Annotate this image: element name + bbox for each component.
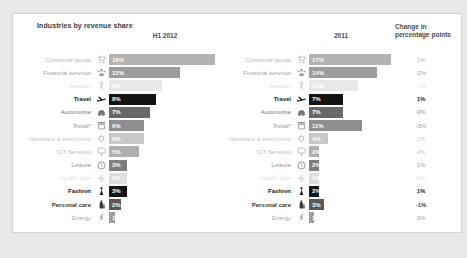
bar-value-2011: 11%	[309, 123, 324, 129]
monitor-icon	[93, 147, 109, 156]
bar-area-h1-2012: 6%	[109, 133, 221, 144]
bar-area-h1-2012: 1%	[109, 212, 221, 223]
bar-area-h1-2012: 9%	[109, 80, 221, 91]
bar-2011: 10%	[309, 80, 358, 91]
phone-icon	[293, 81, 309, 90]
industry-label: Travel	[221, 96, 293, 102]
bar-area-h1-2012: 3%	[109, 173, 221, 184]
bar-2011: 1%	[309, 212, 314, 223]
industry-row: ICT Services5%ICT Services2%3%	[13, 145, 463, 158]
bar-area-2011: 17%	[309, 54, 393, 65]
industry-label: Automotive	[221, 109, 293, 115]
bar-value-h1-2012: 8%	[109, 96, 121, 102]
bar-area-2011: 3%	[309, 199, 393, 210]
bar-value-h1-2012: 5%	[109, 149, 121, 155]
industry-row: Personal care2%Personal care3%-1%	[13, 198, 463, 211]
gear-icon	[93, 134, 109, 143]
bar-value-h1-2012: 18%	[109, 57, 124, 63]
bar-2011: 2%	[309, 173, 319, 184]
bar-2011: 7%	[309, 107, 343, 118]
person-icon	[293, 187, 309, 196]
bar-h1-2012: 6%	[109, 133, 144, 144]
bottle-icon	[93, 200, 109, 209]
plane-icon	[93, 95, 109, 104]
change-header-line1: Change in	[395, 23, 459, 31]
industry-label: Consumer goods	[13, 57, 93, 63]
change-value: -1%	[393, 202, 449, 208]
bar-value-2011: 14%	[309, 70, 324, 76]
plane-icon	[293, 95, 309, 104]
bar-value-h1-2012: 1%	[109, 215, 121, 221]
bar-area-2011: 10%	[309, 80, 393, 91]
industry-label: Fashion	[13, 188, 93, 194]
change-value: -5%	[393, 123, 449, 129]
industry-label: Fashion	[221, 188, 293, 194]
change-value: 2%	[393, 136, 449, 142]
bar-value-2011: 17%	[309, 57, 324, 63]
bar-2011: 2%	[309, 160, 319, 171]
bar-h1-2012: 3%	[109, 173, 127, 184]
bar-area-h1-2012: 5%	[109, 146, 221, 157]
bar-area-2011: 1%	[309, 212, 393, 223]
bar-h1-2012: 2%	[109, 199, 121, 210]
bar-value-2011: 3%	[309, 202, 321, 208]
column-header-2011: 2011	[299, 32, 383, 39]
bar-area-2011: 2%	[309, 173, 393, 184]
bar-value-h1-2012: 3%	[109, 175, 121, 181]
bar-value-h1-2012: 6%	[109, 136, 121, 142]
column-header-change: Change in percentage points	[395, 23, 459, 40]
bar-2011: 17%	[309, 54, 391, 65]
bar-area-2011: 7%	[309, 107, 393, 118]
industry-label: Consumer goods	[221, 57, 293, 63]
people-icon	[93, 68, 109, 77]
phone-icon	[93, 81, 109, 90]
bar-area-h1-2012: 18%	[109, 54, 221, 65]
industry-label: Energy	[221, 215, 293, 221]
industry-row: Energy1%Energy1%0%	[13, 211, 463, 224]
bar-area-h1-2012: 12%	[109, 67, 221, 78]
bar-h1-2012: 12%	[109, 67, 180, 78]
bar-area-h1-2012: 2%	[109, 199, 221, 210]
monitor-icon	[293, 147, 309, 156]
change-value: 1%	[393, 188, 449, 194]
bar-2011: 2%	[309, 146, 319, 157]
bar-value-2011: 7%	[309, 109, 321, 115]
bar-value-2011: 2%	[309, 188, 321, 194]
bar-area-h1-2012: 7%	[109, 107, 221, 118]
bar-area-2011: 4%	[309, 133, 393, 144]
cross-icon	[93, 174, 109, 183]
bar-area-2011: 14%	[309, 67, 393, 78]
industry-row: Financial services12%Financial services1…	[13, 66, 463, 79]
bar-value-2011: 2%	[309, 175, 321, 181]
change-value: -1%	[393, 83, 449, 89]
rows: Consumer goods18%Consumer goods17%1%Fina…	[13, 53, 463, 224]
industry-label: Financial services	[13, 70, 93, 76]
bar-value-h1-2012: 3%	[109, 162, 121, 168]
industry-row: Consumer goods18%Consumer goods17%1%	[13, 53, 463, 66]
bar-value-h1-2012: 12%	[109, 70, 124, 76]
bar-h1-2012: 9%	[109, 80, 162, 91]
change-value: 1%	[393, 175, 449, 181]
clock-icon	[93, 161, 109, 170]
bar-area-2011: 2%	[309, 146, 393, 157]
clock-icon	[293, 161, 309, 170]
industry-row: Health care3%Health care2%1%	[13, 172, 463, 185]
bar-area-h1-2012: 3%	[109, 160, 221, 171]
bolt-icon	[293, 213, 309, 222]
bar-value-2011: 1%	[309, 215, 321, 221]
industry-label: Leisure	[221, 162, 293, 168]
bolt-icon	[93, 213, 109, 222]
bar-h1-2012: 1%	[109, 212, 115, 223]
industry-label: Personal care	[221, 202, 293, 208]
bar-area-2011: 2%	[309, 186, 393, 197]
car-icon	[293, 108, 309, 117]
industry-label: Health care	[13, 175, 93, 181]
change-value: 3%	[393, 149, 449, 155]
bar-value-2011: 4%	[309, 136, 321, 142]
bar-h1-2012: 7%	[109, 107, 150, 118]
bar-2011: 14%	[309, 67, 377, 78]
bar-h1-2012: 8%	[109, 94, 156, 105]
car-icon	[93, 108, 109, 117]
industry-label: Hardware & electronics	[221, 136, 293, 142]
bar-area-2011: 2%	[309, 160, 393, 171]
